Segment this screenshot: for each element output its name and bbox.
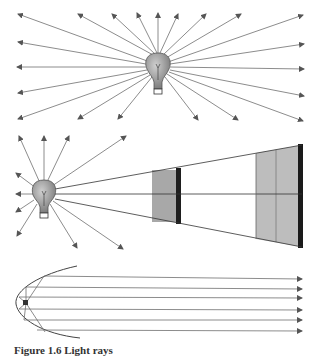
near-screen xyxy=(152,170,179,222)
figure-caption: Figure 1.6 Light rays xyxy=(14,344,113,356)
bulb-icon xyxy=(146,53,170,94)
far-screen-edge xyxy=(298,144,303,248)
near-screen-edge xyxy=(176,168,181,224)
bulb-icon xyxy=(32,180,55,218)
panel-c-parabolic-reflector xyxy=(16,266,302,338)
point-source xyxy=(23,300,28,305)
panel-b-inverse-square xyxy=(16,136,303,249)
far-screen xyxy=(256,145,302,247)
